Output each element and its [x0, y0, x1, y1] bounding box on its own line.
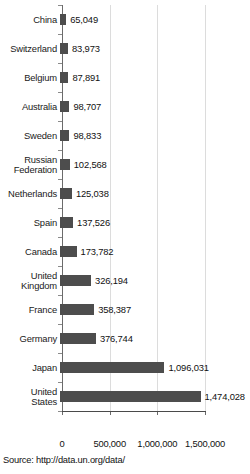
bar-row: Switzerland83,973 [0, 34, 250, 63]
bar-zone: 326,194 [60, 266, 250, 295]
x-tick-label-group: 0500,0001,000,0001,500,000 [0, 438, 250, 452]
x-tick [110, 412, 111, 415]
bar-row: Sweden98,833 [0, 121, 250, 150]
bar-value-label: 376,744 [100, 334, 133, 344]
category-label: United States [0, 387, 60, 407]
source-note: Source: http://data.un.org/data/ [3, 454, 125, 466]
bar [60, 391, 201, 402]
bar-row: United States1,474,028 [0, 382, 250, 411]
bar-value-label: 102,568 [74, 160, 107, 170]
bar-row: Japan1,096,031 [0, 353, 250, 382]
bar-zone: 376,744 [60, 324, 250, 353]
bar-row: Canada173,782 [0, 237, 250, 266]
bar-row: Germany376,744 [0, 324, 250, 353]
bar-zone: 83,973 [60, 34, 250, 63]
x-tick-label: 1,500,000 [185, 438, 225, 450]
bar-value-label: 98,707 [73, 102, 101, 112]
bar [60, 130, 69, 141]
bar [60, 362, 164, 373]
bar-value-label: 125,038 [76, 189, 109, 199]
bar-row: Netherlands125,038 [0, 179, 250, 208]
bar-zone: 358,387 [60, 295, 250, 324]
category-label: China [0, 15, 60, 25]
bar-row: France358,387 [0, 295, 250, 324]
bar [60, 246, 77, 257]
category-label: Belgium [0, 73, 60, 83]
x-tick [157, 412, 158, 415]
category-label: Canada [0, 247, 60, 257]
bar-zone: 137,526 [60, 208, 250, 237]
x-tick-label: 500,000 [93, 438, 126, 450]
bar-value-label: 358,387 [98, 305, 131, 315]
bar-zone: 102,568 [60, 150, 250, 179]
category-label: Germany [0, 334, 60, 344]
category-label: Spain [0, 218, 60, 228]
bar-zone: 65,049 [60, 5, 250, 34]
category-label: Russian Federation [0, 155, 60, 175]
category-label: United Kingdom [0, 271, 60, 291]
category-label: France [0, 305, 60, 315]
bar [60, 72, 68, 83]
bar-row: United Kingdom326,194 [0, 266, 250, 295]
x-tick [62, 412, 63, 415]
bar-zone: 125,038 [60, 179, 250, 208]
bar-row: China65,049 [0, 5, 250, 34]
bar-row: Russian Federation102,568 [0, 150, 250, 179]
bar-zone: 1,474,028 [60, 382, 250, 411]
bar-zone: 98,833 [60, 121, 250, 150]
bar-row: Belgium87,891 [0, 63, 250, 92]
bar-value-label: 1,096,031 [168, 363, 208, 373]
bar-value-label: 98,833 [73, 131, 101, 141]
bar-zone: 1,096,031 [60, 353, 250, 382]
bar-value-label: 137,526 [77, 218, 110, 228]
bar-zone: 98,707 [60, 92, 250, 121]
bar [60, 43, 68, 54]
category-label: Japan [0, 363, 60, 373]
x-tick-label: 1,000,000 [137, 438, 177, 450]
category-label: Australia [0, 102, 60, 112]
x-axis-line [62, 411, 206, 412]
bar [60, 333, 96, 344]
bar-zone: 87,891 [60, 63, 250, 92]
bar-zone: 173,782 [60, 237, 250, 266]
bar-value-label: 87,891 [72, 73, 100, 83]
bar [60, 101, 69, 112]
bar [60, 188, 72, 199]
x-tick [205, 412, 206, 415]
bar-value-label: 1,474,028 [205, 392, 245, 402]
bar [60, 14, 66, 25]
category-label: Netherlands [0, 189, 60, 199]
x-tick-label: 0 [59, 438, 64, 450]
bar-value-label: 83,973 [72, 44, 100, 54]
bar-value-label: 326,194 [95, 276, 128, 286]
bar-value-label: 173,782 [81, 247, 114, 257]
bar-row-list: China65,049Switzerland83,973Belgium87,89… [0, 5, 250, 411]
plot-area: China65,049Switzerland83,973Belgium87,89… [0, 0, 250, 436]
category-label: Switzerland [0, 44, 60, 54]
bar-row: Australia98,707 [0, 92, 250, 121]
bar [60, 304, 94, 315]
category-label: Sweden [0, 131, 60, 141]
bar [60, 159, 70, 170]
bar [60, 217, 73, 228]
bar-value-label: 65,049 [70, 15, 98, 25]
bar-chart-figure: China65,049Switzerland83,973Belgium87,89… [0, 0, 250, 474]
bar-row: Spain137,526 [0, 208, 250, 237]
bar [60, 275, 91, 286]
